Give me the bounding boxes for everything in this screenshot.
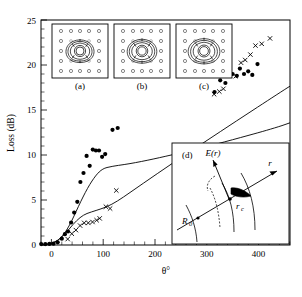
y-tick-label-15: 15 xyxy=(27,105,37,115)
y-axis-title: Loss (dB) xyxy=(6,114,17,152)
inset-c-label: (c) xyxy=(199,81,209,91)
figure-container: 0 5 10 15 20 25 xyxy=(0,0,302,297)
y-tick-label-20: 20 xyxy=(27,60,37,70)
y-axis-ticks xyxy=(41,20,47,245)
inset-b-label: (b) xyxy=(137,81,148,91)
x-tick-label-0: 0 xyxy=(49,249,54,259)
loss-vs-theta-chart: 0 5 10 15 20 25 xyxy=(0,0,302,297)
x-tick-label-200: 200 xyxy=(148,249,162,259)
rc-label: r xyxy=(236,201,240,211)
rc-point-marker xyxy=(228,197,232,201)
radius-label: r xyxy=(268,158,272,168)
x-tick-label-400: 400 xyxy=(252,249,266,259)
y-tick-label-5: 5 xyxy=(32,195,37,205)
r0-label: R xyxy=(181,216,188,226)
rc-subscript: c xyxy=(241,205,244,212)
inset-d-label: (d) xyxy=(182,150,193,160)
field-label: E(r) xyxy=(205,148,221,158)
x-tick-label-300: 300 xyxy=(200,249,214,259)
inset-panel-c: (c) xyxy=(176,24,232,91)
y-tick-label-25: 25 xyxy=(27,16,37,26)
r0-point-marker xyxy=(196,216,199,219)
y-tick-label-0: 0 xyxy=(32,240,37,250)
inset-panel-d: (d) E(r) r r c R 0 xyxy=(172,143,289,244)
inset-panel-a: (a) xyxy=(52,24,108,91)
inset-a-label: (a) xyxy=(75,81,85,91)
y-tick-label-10: 10 xyxy=(27,150,37,160)
x-axis-title: θ° xyxy=(162,266,171,276)
x-tick-label-100: 100 xyxy=(96,249,110,259)
inset-panel-b: (b) xyxy=(114,24,170,91)
